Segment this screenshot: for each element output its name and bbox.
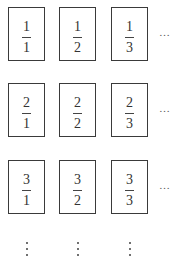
fraction-card-3-3: 33 (111, 160, 148, 214)
numerator: 1 (112, 19, 147, 34)
fraction-bar (73, 113, 82, 114)
fraction-bar (125, 190, 134, 191)
numerator: 3 (9, 172, 44, 187)
fraction-card-2-1: 21 (8, 83, 45, 137)
fraction-bar (125, 113, 134, 114)
fraction-card-2-2: 22 (59, 83, 96, 137)
fraction-bar (73, 37, 82, 38)
fraction-card-1-1: 11 (8, 7, 45, 61)
denominator: 1 (9, 193, 44, 208)
fraction-card-3-1: 31 (8, 160, 45, 214)
numerator: 1 (9, 19, 44, 34)
column-continuation-vdots (129, 242, 132, 257)
numerator: 1 (60, 19, 95, 34)
fraction-card-3-2: 32 (59, 160, 96, 214)
denominator: 2 (60, 116, 95, 131)
numerator: 2 (9, 95, 44, 110)
row-continuation-ellipsis: … (159, 179, 171, 191)
fraction-card-2-3: 23 (111, 83, 148, 137)
numerator: 3 (60, 172, 95, 187)
row-continuation-ellipsis: … (159, 102, 171, 114)
fraction-card-1-2: 12 (59, 7, 96, 61)
fraction-bar (73, 190, 82, 191)
denominator: 1 (9, 116, 44, 131)
fraction-bar (22, 190, 31, 191)
fraction-card-1-3: 13 (111, 7, 148, 61)
denominator: 1 (9, 40, 44, 55)
numerator: 2 (60, 95, 95, 110)
row-continuation-ellipsis: … (159, 26, 171, 38)
fraction-bar (22, 113, 31, 114)
numerator: 3 (112, 172, 147, 187)
denominator: 3 (112, 193, 147, 208)
denominator: 2 (60, 40, 95, 55)
denominator: 3 (112, 40, 147, 55)
denominator: 2 (60, 193, 95, 208)
fraction-bar (125, 37, 134, 38)
fraction-bar (22, 37, 31, 38)
column-continuation-vdots (26, 242, 29, 257)
numerator: 2 (112, 95, 147, 110)
denominator: 3 (112, 116, 147, 131)
column-continuation-vdots (77, 242, 80, 257)
